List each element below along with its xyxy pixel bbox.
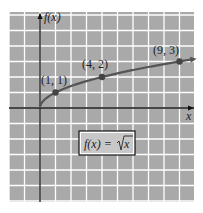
x-axis-label: x [185,109,192,123]
y-axis-label: f(x) [44,10,61,24]
data-point [52,89,58,95]
formula-radicand: x [123,137,130,151]
data-point [99,74,105,80]
formula-lhs: f(x) = [84,137,112,151]
point-label-1-1: (1, 1) [41,73,67,87]
formula-box: f(x) = x [79,131,135,155]
sqrt-function-graph: f(x) x (1, 1) (4, 2) (9, 3) f(x) = x [0,0,203,213]
point-label-4-2: (4, 2) [82,57,108,71]
point-label-9-3: (9, 3) [153,43,179,57]
data-point [176,58,182,64]
